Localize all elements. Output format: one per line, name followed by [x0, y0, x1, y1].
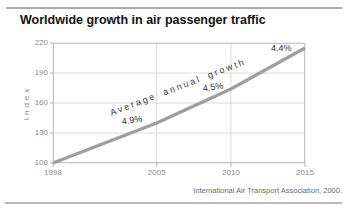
traffic-index-line	[53, 48, 305, 163]
y-tick-label: 130	[0, 128, 48, 138]
bottom-divider	[5, 202, 342, 204]
chart-title: Worldwide growth in air passenger traffi…	[20, 13, 266, 27]
growth-rate-label: 4.4%	[271, 43, 292, 53]
plot-canvas	[53, 43, 305, 163]
source-credit: International Air Transport Association,…	[193, 186, 342, 195]
x-tick-label: 2015	[296, 168, 314, 177]
x-tick-label: 1998	[44, 168, 62, 177]
y-tick-label: 220	[0, 38, 48, 48]
plot-area	[53, 43, 305, 163]
figure: Worldwide growth in air passenger traffi…	[0, 0, 349, 211]
x-tick-label: 2005	[148, 168, 166, 177]
y-tick-label: 190	[0, 68, 48, 78]
y-tick-label: 100	[0, 158, 48, 168]
x-tick-label: 2010	[222, 168, 240, 177]
y-tick-label: 160	[0, 98, 48, 108]
top-divider	[6, 7, 342, 9]
